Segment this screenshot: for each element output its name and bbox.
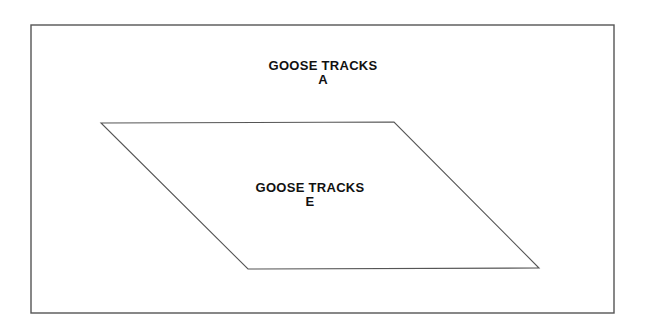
inner-label-line2: E [306, 194, 315, 209]
venn-style-diagram: GOOSE TRACKS A GOOSE TRACKS E [0, 0, 648, 330]
inner-label-line1: GOOSE TRACKS [255, 180, 364, 195]
inner-parallelogram [101, 122, 539, 269]
outer-label-line2: A [318, 72, 328, 87]
outer-label-line1: GOOSE TRACKS [268, 58, 377, 73]
